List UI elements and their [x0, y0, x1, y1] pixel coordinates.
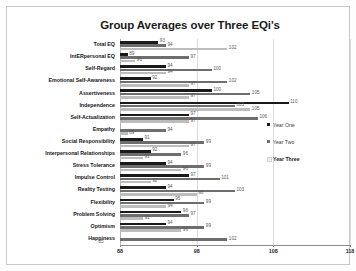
bar-data-label: 91 [145, 136, 150, 141]
bar-year-two [120, 117, 258, 120]
bar-data-label: 102 [229, 79, 237, 84]
legend-label: Year Two [273, 139, 294, 145]
bar-year-one [120, 77, 151, 80]
bar-data-label: 97 [191, 173, 196, 178]
bar-data-label: 94 [168, 204, 173, 209]
category-label: Self-Regard [85, 66, 115, 71]
legend-item-year-two[interactable]: Year Two [267, 139, 343, 156]
bar-data-label: 110 [290, 100, 297, 105]
slide-frame: Group Averages over Three EQi's Total EQ… [6, 6, 350, 265]
category-label: Reality Testing [78, 187, 115, 192]
category-label: Emotional Self-Awareness [49, 78, 115, 83]
bar-data-label: 89 [129, 52, 134, 57]
bar-year-one [120, 41, 158, 44]
legend-item-year-one[interactable]: Year One [267, 122, 343, 139]
bar-year-one [120, 162, 166, 165]
bar-year-one [120, 199, 174, 202]
x-axis-tick-label: 118 [346, 248, 355, 254]
bar-data-label: 92 [152, 179, 157, 184]
bar-data-label: 92 [152, 76, 157, 81]
bar-year-two [120, 44, 166, 47]
bar-data-label: 102 [229, 237, 237, 242]
x-axis-tick [197, 245, 198, 247]
bar-year-two [120, 153, 181, 156]
category-label: Impulse Control [75, 175, 115, 180]
category-axis-labels: Total EQIntERpersonal EQSelf-RegardEmoti… [19, 39, 118, 245]
bar-data-label: 97 [191, 212, 196, 217]
bar-data-label: 97 [191, 119, 196, 124]
bar-year-two [120, 214, 189, 217]
bar-year-three [120, 157, 143, 160]
bar-data-label: 95 [175, 197, 180, 202]
x-axis-line [120, 245, 350, 246]
bar-data-label: 93 [160, 39, 165, 44]
bar-year-two [120, 69, 212, 72]
bar-year-one [120, 89, 212, 92]
bar-data-label: 99 [206, 224, 211, 229]
bar-data-label: 99 [206, 164, 211, 169]
bar-year-two [120, 226, 204, 229]
bar-data-label: 97 [191, 82, 196, 87]
x-axis-tick [120, 245, 121, 247]
legend-swatch-icon [267, 123, 270, 126]
bar-data-label: 96 [183, 167, 188, 172]
bar-year-three [120, 96, 189, 99]
bar-data-label: 96 [183, 228, 188, 233]
chart-legend: Year One Year Two Year Three [267, 122, 343, 173]
bar-year-three [120, 60, 135, 63]
bar-year-two [120, 81, 227, 84]
category-label: Social Responsibility [62, 139, 115, 144]
bar-year-three [120, 217, 143, 220]
bar-year-one [120, 114, 189, 117]
bar-data-label: 99 [206, 140, 211, 145]
bar-data-label: 105 [252, 91, 260, 96]
bar-year-one [120, 150, 151, 153]
bar-year-one [120, 102, 289, 105]
bar-year-two [120, 178, 220, 181]
category-label: Flexibility [91, 200, 115, 205]
bar-year-two [120, 190, 235, 193]
bar-year-three [120, 193, 197, 196]
bar-year-one [120, 138, 143, 141]
bar-data-label: 92 [152, 148, 157, 153]
bar-data-label: 97 [191, 143, 196, 148]
bar-data-label: 94 [168, 43, 173, 48]
bar-year-three [120, 205, 166, 208]
bar-data-label: 100 [214, 67, 222, 72]
bar-year-three [120, 169, 181, 172]
bar-year-two [120, 56, 189, 59]
bar-year-three [120, 72, 166, 75]
legend-label: Year Three [273, 156, 300, 162]
bar-data-label: 97 [191, 55, 196, 60]
bar-year-three [120, 181, 151, 184]
x-axis-tick-label: 98 [194, 248, 200, 254]
bar-data-label: 103 [237, 188, 245, 193]
category-label: IntERpersonal EQ [70, 54, 115, 59]
bar-data-label: 97 [191, 94, 196, 99]
bar-data-label: 98 [198, 191, 203, 196]
legend-swatch-icon [267, 140, 270, 143]
bar-data-label: 102 [229, 46, 237, 51]
category-label: Total EQ [94, 42, 115, 47]
bar-year-three [120, 120, 189, 123]
bar-year-one [120, 174, 189, 177]
category-label: Assertiveness [79, 91, 115, 96]
bar-data-label: 94 [168, 70, 173, 75]
category-label: Interpersonal Relationships [45, 151, 115, 156]
bar-year-two [120, 238, 227, 241]
bar-data-label: 94 [168, 128, 173, 133]
legend-swatch-icon [267, 157, 272, 162]
bar-year-one [120, 53, 128, 56]
chart-title: Group Averages over Three EQi's [95, 19, 285, 31]
bar-year-one [120, 186, 166, 189]
bar-data-label: 99 [206, 200, 211, 205]
bar-year-one [120, 223, 166, 226]
bar-year-one [120, 65, 166, 68]
bar-data-label: 91 [145, 216, 150, 221]
x-axis-tick-label: 108 [269, 248, 278, 254]
legend-item-year-three[interactable]: Year Three [267, 156, 343, 173]
bar-data-label: 103 [237, 103, 245, 108]
bar-data-label: 94 [168, 64, 173, 69]
bar-data-label: 94 [168, 221, 173, 226]
bar-year-two [120, 202, 204, 205]
